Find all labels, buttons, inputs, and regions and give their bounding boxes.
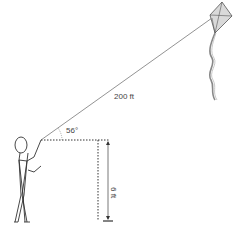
- arrow-down-icon: [106, 216, 110, 220]
- angle-arc: [58, 128, 62, 140]
- kite: [210, 2, 232, 100]
- kite-string: [41, 18, 212, 140]
- angle-label: 56°: [66, 126, 78, 135]
- head: [15, 137, 27, 153]
- stick-figure: [14, 137, 41, 222]
- string-length-label: 200 ft: [114, 92, 135, 101]
- height-label: 6 ft: [109, 187, 118, 199]
- arrow-up-icon: [106, 141, 110, 145]
- kite-diagram: 56° 200 ft 6 ft: [0, 0, 241, 236]
